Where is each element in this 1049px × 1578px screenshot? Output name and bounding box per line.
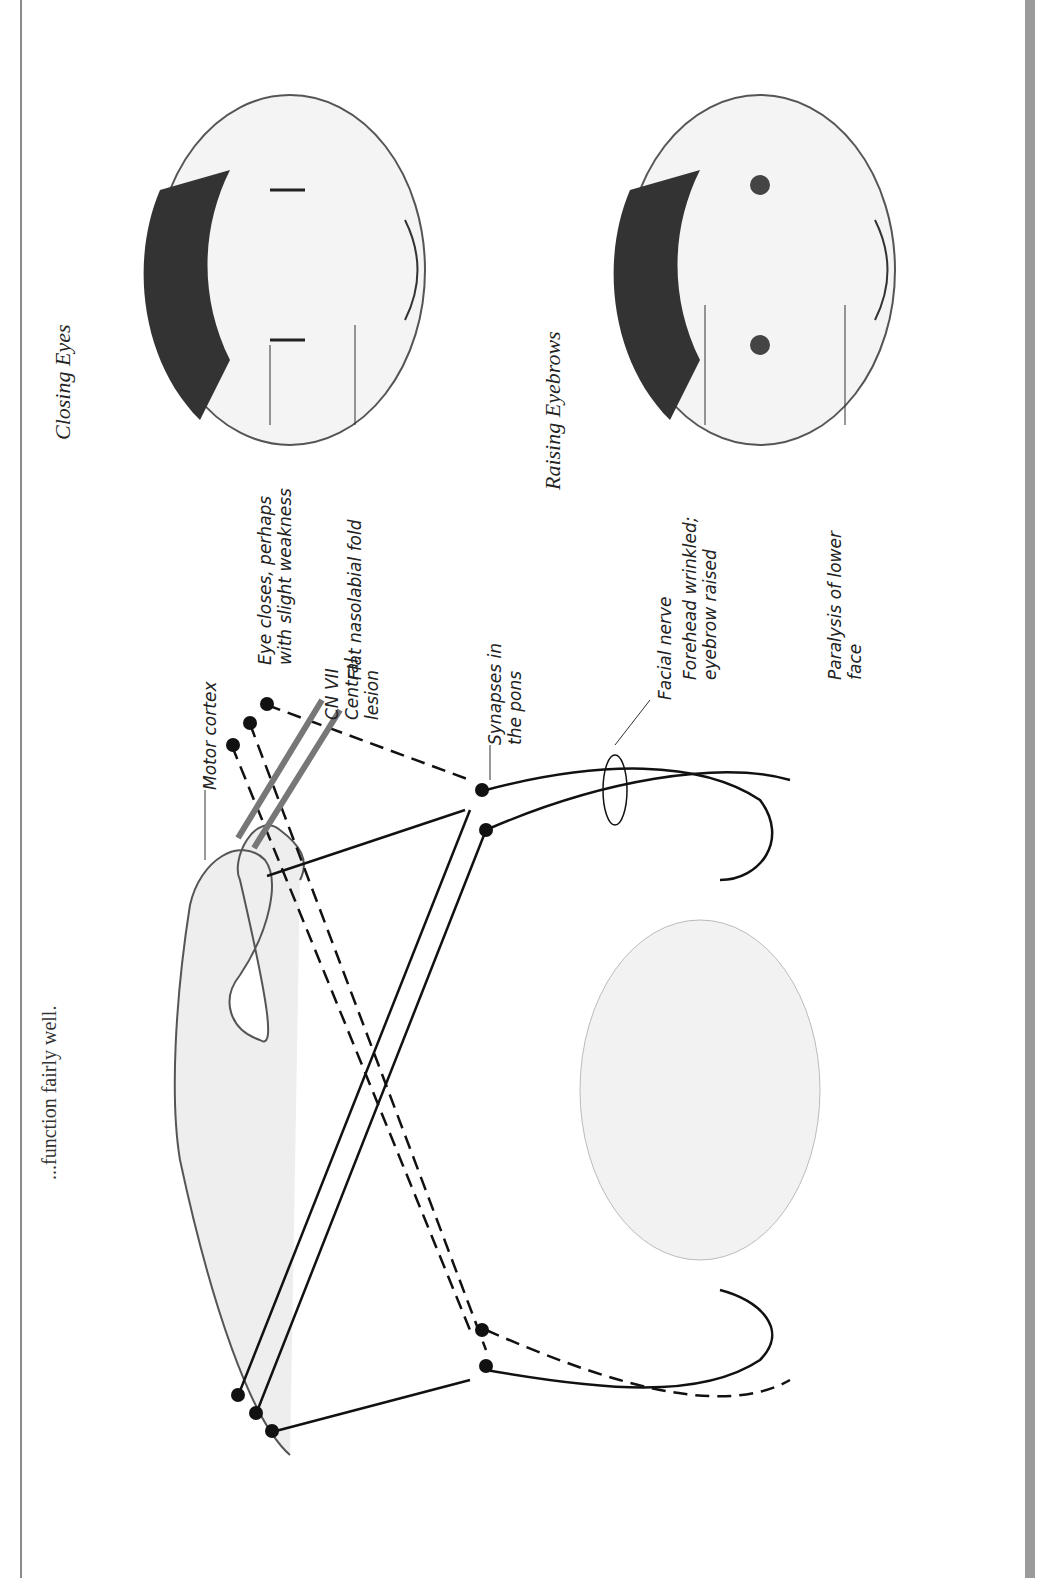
annotation-eye-closes-line2: with slight weakness — [275, 488, 295, 665]
annotation-paralysis-lower-face: Paralysis of lower face — [825, 531, 865, 680]
closing-eyes-face — [144, 95, 425, 445]
annotation-eye-closes-line1: Eye closes, perhaps — [255, 488, 275, 665]
annotation-forehead-wrinkled-line2: eyebrow raised — [700, 517, 720, 680]
raising-eyebrows-face — [614, 95, 895, 445]
annotation-forehead-wrinkled-line1: Forehead wrinkled; — [680, 517, 700, 680]
annotation-paralysis-line1: Paralysis of lower — [825, 531, 845, 680]
caption-closing-eyes: Closing Eyes — [50, 325, 76, 441]
page: ...function fairly well. — [0, 0, 1049, 1578]
annotation-flat-nasolabial-fold: Flat nasolabial fold — [345, 519, 365, 680]
annotation-paralysis-line2: face — [845, 531, 865, 680]
annotation-eye-closes: Eye closes, perhaps with slight weakness — [255, 488, 295, 665]
annotation-forehead-wrinkled: Forehead wrinkled; eyebrow raised — [680, 517, 720, 680]
caption-raising-eyebrows: Raising Eyebrows — [540, 331, 566, 490]
face-illustrations — [0, 0, 1049, 1578]
